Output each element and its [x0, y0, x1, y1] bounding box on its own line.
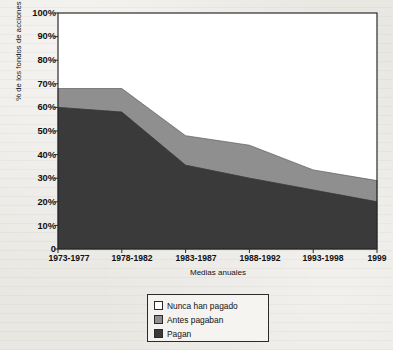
legend-label: Nunca han pagado — [167, 301, 238, 311]
legend-item-nunca-han-pagado: Nunca han pagado — [154, 299, 263, 312]
legend-item-pagan: Pagan — [154, 327, 263, 340]
gray-swatch-icon — [154, 315, 163, 324]
dark-swatch-icon — [154, 329, 163, 338]
stacked-area-chart: % de los fondos de acciones estadouniden… — [0, 0, 393, 350]
legend-item-antes-pagaban: Antes pagaban — [154, 313, 263, 326]
x-tick-label-1999: 1999 — [347, 253, 393, 263]
legend-label: Pagan — [167, 329, 191, 339]
chart-legend: Nunca han pagado Antes pagaban Pagan — [147, 294, 269, 342]
legend-label: Antes pagaban — [167, 315, 223, 325]
x-axis-title: Medias anuales — [58, 268, 378, 277]
white-swatch-icon — [154, 301, 163, 310]
